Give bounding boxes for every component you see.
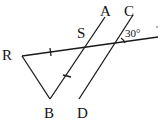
label-r: R <box>2 47 12 63</box>
tick-mark-rs <box>50 48 51 56</box>
label-b: B <box>44 105 54 121</box>
angle-label: 30° <box>125 27 140 39</box>
geometry-diagram: R S A C B D 30° <box>0 0 162 121</box>
label-s: S <box>77 25 85 41</box>
label-d: D <box>77 105 88 121</box>
dot-mark <box>156 26 157 27</box>
segment-rb <box>22 56 50 99</box>
label-c: C <box>124 3 134 19</box>
label-a: A <box>100 3 111 19</box>
